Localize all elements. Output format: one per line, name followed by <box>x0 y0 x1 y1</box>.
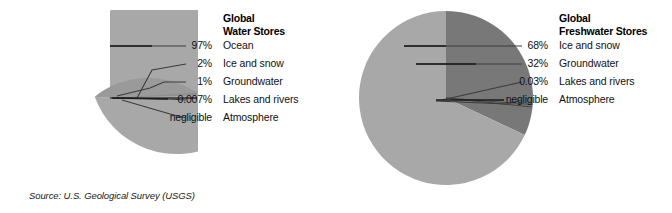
legend-label: Groundwater <box>223 76 283 87</box>
legend-row: negligible Atmosphere <box>486 90 672 108</box>
water-stores-figure: Global Water Stores 97% Ocean 2% Ice and… <box>0 0 672 213</box>
chart-title-water-stores: Global Water Stores <box>223 12 285 37</box>
legend-label: Ice and snow <box>559 40 620 51</box>
legend-row: 68% Ice and snow <box>486 36 672 54</box>
legend-label: Lakes and rivers <box>223 94 298 105</box>
chart-global-water-stores: Global Water Stores 97% Ocean 2% Ice and… <box>0 0 336 213</box>
legend-percent: 68% <box>486 40 548 51</box>
chart-title-line1: Global <box>559 12 647 25</box>
chart-title-freshwater-stores: Global Freshwater Stores <box>559 12 647 37</box>
legend-percent: 97% <box>150 40 212 51</box>
legend-percent: negligible <box>150 112 212 123</box>
legend-label: Ice and snow <box>223 58 284 69</box>
legend-row: 2% Ice and snow <box>150 54 340 72</box>
legend-label: Atmosphere <box>223 112 279 123</box>
legend-percent: 32% <box>486 58 548 69</box>
legend-percent: 2% <box>150 58 212 69</box>
legend-row: 0.007% Lakes and rivers <box>150 90 340 108</box>
legend-freshwater-stores: 68% Ice and snow 32% Groundwater 0.03% L… <box>486 36 672 108</box>
chart-title-line1: Global <box>223 12 285 25</box>
legend-percent: 0.007% <box>150 94 212 105</box>
legend-water-stores: 97% Ocean 2% Ice and snow 1% Groundwater… <box>150 36 340 126</box>
legend-row: 1% Groundwater <box>150 72 340 90</box>
legend-row: 32% Groundwater <box>486 54 672 72</box>
chart-global-freshwater-stores: Global Freshwater Stores 68% Ice and sno… <box>336 0 672 213</box>
legend-percent: negligible <box>486 94 548 105</box>
legend-label: Groundwater <box>559 58 619 69</box>
legend-row: 97% Ocean <box>150 36 340 54</box>
legend-label: Ocean <box>223 40 253 51</box>
legend-percent: 0.03% <box>486 76 548 87</box>
legend-row: 0.03% Lakes and rivers <box>486 72 672 90</box>
legend-percent: 1% <box>150 76 212 87</box>
legend-row: negligible Atmosphere <box>150 108 340 126</box>
legend-label: Atmosphere <box>559 94 615 105</box>
legend-label: Lakes and rivers <box>559 76 634 87</box>
source-note: Source: U.S. Geological Survey (USGS) <box>29 190 195 201</box>
